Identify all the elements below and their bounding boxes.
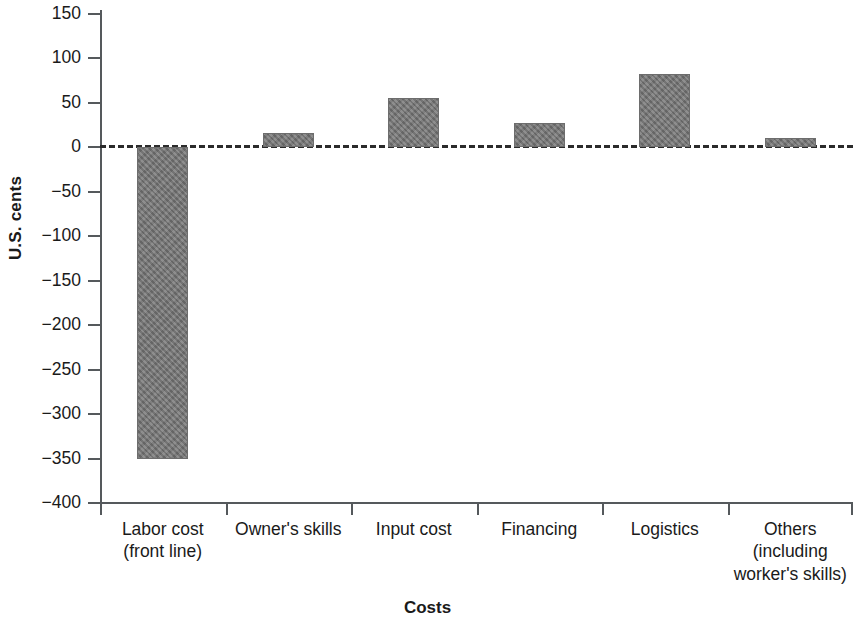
bar <box>388 98 439 148</box>
x-axis-category-label: Others(includingworker's skills) <box>724 518 855 585</box>
x-axis-category-label: Labor cost(front line) <box>96 518 230 563</box>
x-axis-category-label: Owner's skills <box>222 518 356 540</box>
x-axis-tick <box>728 504 730 515</box>
x-axis-category-label-line: Labor cost <box>96 518 230 540</box>
bar <box>514 123 565 147</box>
x-axis-category-label-line: Owner's skills <box>222 518 356 540</box>
x-axis-category-label-line: Financing <box>473 518 607 540</box>
x-axis-category-label-line: Input cost <box>347 518 481 540</box>
x-axis-tick <box>602 504 604 515</box>
x-axis-title: Costs <box>0 598 855 618</box>
x-axis-category-label-line: Others <box>724 518 855 540</box>
x-axis-tick <box>477 504 479 515</box>
bar-chart: U.S. cents 150100500−50−100−150−200−250−… <box>0 0 855 632</box>
x-axis-category-label-line: (including <box>724 540 855 562</box>
x-axis-category-label: Input cost <box>347 518 481 540</box>
x-axis-category-label-line: Logistics <box>598 518 732 540</box>
bar <box>639 74 690 148</box>
x-axis-category-label-line: worker's skills) <box>724 563 855 585</box>
x-axis-tick <box>100 504 102 515</box>
x-axis-category-label: Financing <box>473 518 607 540</box>
bar <box>263 133 314 147</box>
x-axis-category-label-line: (front line) <box>96 540 230 562</box>
bar <box>137 147 188 458</box>
x-axis-tick <box>851 504 853 515</box>
x-axis-tick <box>351 504 353 515</box>
x-axis-tick <box>226 504 228 515</box>
bar <box>765 138 816 148</box>
x-axis-category-label: Logistics <box>598 518 732 540</box>
